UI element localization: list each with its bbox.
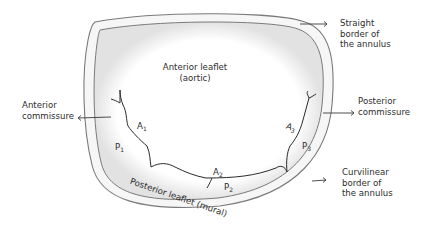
- anterior-leaflet-line-1: Anterior leaflet: [150, 62, 240, 73]
- straight-border-label: Straight border of the annulus: [340, 18, 391, 50]
- posterior-commissure-label: Posterior commissure: [358, 96, 410, 117]
- curvilinear-border-arrow: [312, 178, 326, 183]
- segment-p2: P2: [224, 182, 233, 193]
- anterior-leaflet-label: Anterior leaflet (aortic): [150, 62, 240, 83]
- curvilinear-border-line-1: Curvilinear: [342, 167, 393, 178]
- anterior-commissure-line-1: Anterior: [22, 100, 74, 111]
- anterior-commissure-line-2: commissure: [22, 111, 74, 122]
- straight-border-line-2: border of: [340, 29, 391, 40]
- segment-a1: A1: [137, 121, 147, 132]
- curvilinear-border-label: Curvilinear border of the annulus: [342, 167, 393, 199]
- segment-p3-index: 3: [307, 145, 311, 152]
- segment-p2-index: 2: [229, 186, 233, 193]
- segment-a2: A2: [213, 167, 223, 178]
- curvilinear-border-line-3: the annulus: [342, 188, 393, 199]
- posterior-commissure-line-2: commissure: [358, 107, 410, 118]
- segment-p1-index: 1: [120, 146, 124, 153]
- segment-p1: P1: [115, 142, 124, 153]
- straight-border-line-1: Straight: [340, 18, 391, 29]
- segment-a1-index: 1: [143, 125, 147, 132]
- posterior-commissure-line-1: Posterior: [358, 96, 410, 107]
- segment-a2-index: 2: [219, 171, 223, 178]
- curvilinear-border-line-2: border of: [342, 178, 393, 189]
- anterior-commissure-label: Anterior commissure: [22, 100, 74, 121]
- straight-border-line-3: the annulus: [340, 39, 391, 50]
- anterior-leaflet-line-2: (aortic): [150, 73, 240, 84]
- segment-p3: P3: [302, 141, 311, 152]
